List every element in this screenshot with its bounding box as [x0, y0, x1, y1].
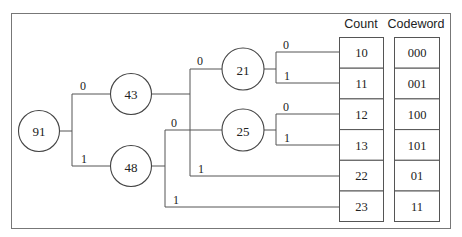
codeword-cell: 11 [411, 200, 423, 214]
node-21: 21 [222, 48, 264, 90]
node-48-label: 48 [125, 160, 138, 175]
count-cell: 12 [355, 108, 368, 122]
huffman-tree-diagram: 91 43 48 21 25 0 1 0 1 0 1 0 1 0 1 Count… [0, 0, 462, 237]
edge-label-n25-1: 1 [284, 131, 290, 145]
edge-label-n43-1: 1 [198, 162, 204, 176]
node-root-label: 91 [33, 124, 46, 139]
count-cell: 13 [355, 139, 368, 153]
edge-label-n21-1: 1 [284, 69, 290, 83]
count-cell: 11 [355, 77, 367, 91]
edge-label-root-0: 0 [80, 79, 86, 93]
edge-label-root-1: 1 [81, 152, 87, 166]
count-cell: 23 [355, 200, 368, 214]
node-root: 91 [19, 111, 60, 152]
header-codeword: Codeword [388, 17, 445, 31]
node-43-label: 43 [125, 87, 138, 102]
edge-label-n48-0: 0 [171, 116, 177, 130]
codeword-cell: 000 [408, 46, 427, 60]
codeword-cell: 101 [408, 139, 427, 153]
count-cell: 10 [355, 46, 368, 60]
node-48: 48 [111, 146, 152, 187]
edge-label-n43-0: 0 [197, 54, 203, 68]
codeword-cell: 100 [408, 108, 427, 122]
node-21-label: 21 [237, 63, 250, 78]
edge-label-n48-1: 1 [173, 193, 179, 207]
node-25-label: 25 [237, 124, 250, 139]
edge-label-n25-0: 0 [283, 100, 289, 114]
edge-label-n21-0: 0 [283, 38, 289, 52]
codeword-cell: 001 [408, 77, 427, 91]
count-cell: 22 [355, 169, 368, 183]
header-count: Count [344, 17, 378, 31]
node-25: 25 [222, 109, 264, 151]
codeword-cell: 01 [411, 169, 424, 183]
codeword-column: 000 001 100 101 01 11 [395, 38, 440, 222]
node-43: 43 [111, 74, 152, 115]
count-column: 10 11 12 13 22 23 [340, 38, 384, 222]
